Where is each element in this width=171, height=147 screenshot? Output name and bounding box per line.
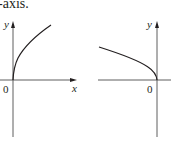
left-graph: y x 0 (0, 18, 77, 137)
graphs-figure: y x 0 y 0 (0, 0, 171, 147)
left-x-label: x (71, 82, 77, 94)
right-curve (99, 47, 157, 80)
right-y-axis-arrow-icon (155, 21, 159, 28)
right-y-label: y (146, 18, 152, 30)
right-graph: y 0 (98, 18, 171, 137)
left-origin-label: 0 (3, 83, 9, 95)
left-curve (13, 25, 51, 80)
left-y-axis-arrow-icon (11, 21, 15, 28)
left-y-label: y (3, 18, 9, 30)
right-origin-label: 0 (147, 83, 153, 95)
